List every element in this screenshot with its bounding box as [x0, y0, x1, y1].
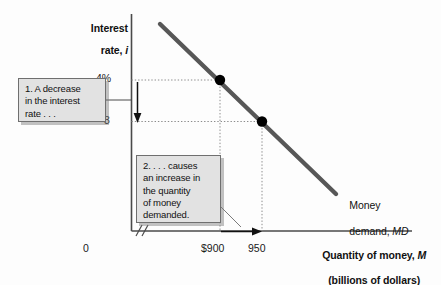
callout-1-line1: 1. A decrease [25, 83, 81, 94]
callout-2-line4: of money [143, 197, 181, 208]
curve-label-line2: demand, MD [349, 225, 408, 237]
origin-label: 0 [83, 243, 89, 254]
y-axis-title-line2: rate, i [101, 44, 128, 56]
data-point-900-4pct [215, 75, 225, 85]
x-tick-label-900: $900 [201, 243, 224, 254]
callout-2-line5: demanded. [143, 209, 189, 220]
quantity-increase-arrow [221, 228, 262, 236]
callout-2-line3: the quantity [143, 185, 190, 196]
data-point-950-3pct [257, 116, 267, 126]
callout-1-line2: in the interest [25, 95, 80, 106]
callout-2-line1: 2. . . . causes [143, 160, 197, 171]
x-axis-variable-m: M [417, 249, 426, 261]
curve-label-md: MD [392, 225, 408, 237]
money-demand-figure: Interest rate, i Quantity of money, M (b… [0, 0, 441, 285]
callout-1-line3: rate . . . [25, 108, 56, 119]
money-demand-curve-label: Money demand, MD [338, 186, 408, 251]
y-axis-variable-i: i [125, 44, 128, 56]
x-axis-title-line2: (billions of dollars) [328, 274, 420, 285]
interest-rate-decrease-arrow [134, 82, 142, 123]
y-axis-title: Interest rate, i [66, 12, 128, 67]
y-axis-title-line1: Interest [91, 22, 128, 34]
curve-label-line1: Money [349, 199, 380, 211]
callout-quantity-increase: 2. . . . causes an increase in the quant… [136, 155, 221, 223]
callout-2-line2: an increase in [143, 172, 200, 183]
callout-interest-rate-decrease: 1. A decrease in the interest rate . . . [18, 78, 106, 122]
x-tick-label-950: 950 [248, 243, 266, 254]
